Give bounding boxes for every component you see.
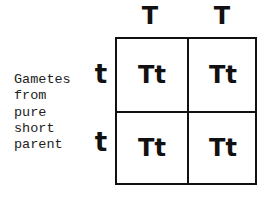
punnett-grid: Tt Tt Tt Tt [115,37,257,185]
genotype: Tt [209,134,237,162]
side-label: Gametes from pure short parent [14,72,71,153]
side-label-line: from [14,88,71,104]
column-gamete-label-1: T [130,2,170,30]
genotype: Tt [209,61,237,89]
side-label-line: short [14,121,71,137]
side-label-line: parent [14,137,71,153]
genotype: Tt [138,61,166,89]
cell-r1-c2: Tt [188,39,258,111]
side-label-line: pure [14,105,71,121]
side-label-line: Gametes [14,72,71,88]
column-gamete-label-2: T [202,2,242,30]
row-gamete-label-1: t [93,60,109,88]
cell-r1-c1: Tt [117,39,187,111]
genotype: Tt [138,134,166,162]
cell-r2-c2: Tt [188,112,258,184]
cell-r2-c1: Tt [117,112,187,184]
row-gamete-label-2: t [93,128,109,156]
